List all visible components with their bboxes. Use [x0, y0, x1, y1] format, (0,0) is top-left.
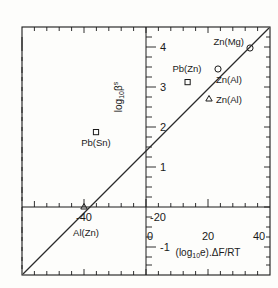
x-axis-title: (log10e).ΔF/RT — [176, 247, 241, 259]
y-tick-label-1: 1 — [160, 161, 166, 173]
y-tick-label-3: 3 — [160, 81, 166, 93]
data-label-zn-al-triangle: Zn(Al) — [216, 94, 242, 105]
data-label-zn-mg: Zn(Mg) — [213, 36, 244, 47]
x-tick-label-40: 40 — [253, 230, 265, 242]
data-marker-pb-sn — [93, 130, 98, 135]
y-axis-title: log10βs — [112, 81, 125, 112]
y-tick-label-4: 4 — [160, 41, 166, 53]
y-tick-label-2: 2 — [160, 121, 166, 133]
data-label-al-zn: Al(Zn) — [73, 227, 99, 238]
x-tick-label-0: 0 — [147, 230, 153, 242]
data-label-pb-zn: Pb(Zn) — [172, 63, 201, 74]
data-marker-zn-al-circle — [215, 66, 221, 72]
scatter-plot: 4 3 2 1 -1 -40 -20 0 20 40 (log10e).ΔF/R… — [0, 0, 278, 288]
x-tick-label-neg20: -20 — [150, 211, 166, 223]
x-tick-label-neg40: -40 — [76, 211, 92, 223]
data-marker-pb-zn — [185, 80, 190, 85]
figure-container: 4 3 2 1 -1 -40 -20 0 20 40 (log10e).ΔF/R… — [0, 0, 278, 288]
data-label-pb-sn: Pb(Sn) — [81, 137, 111, 148]
x-tick-label-20: 20 — [202, 230, 214, 242]
data-marker-zn-mg — [247, 45, 253, 51]
data-marker-zn-al-triangle — [206, 96, 212, 102]
data-label-zn-al-circle: Zn(Al) — [216, 74, 242, 85]
y-tick-label-neg1: -1 — [160, 241, 170, 253]
